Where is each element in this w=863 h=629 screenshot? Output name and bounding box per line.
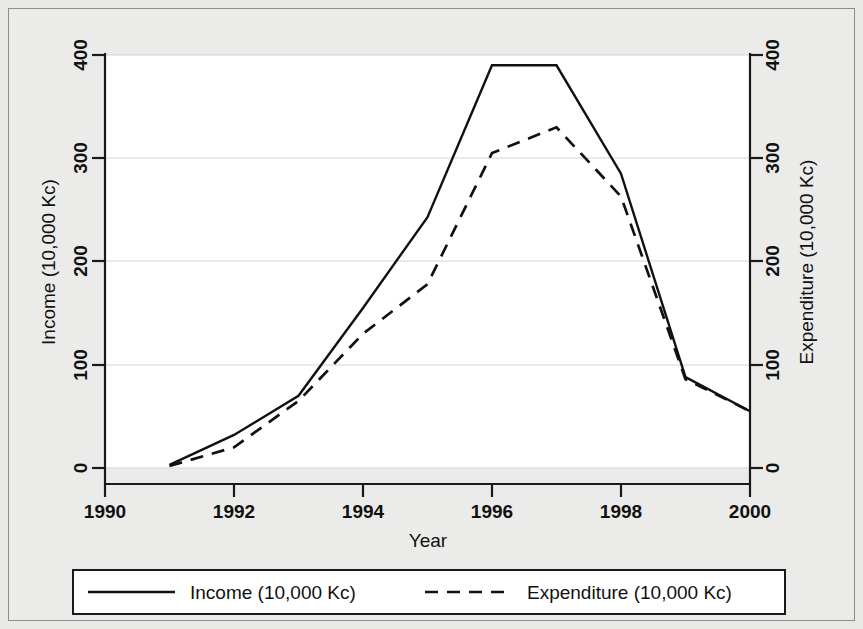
x-ticklabel-1998: 1998 [600, 501, 642, 522]
legend-label-expenditure: Expenditure (10,000 Kc) [527, 582, 732, 603]
left-axis-title: Income (10,000 Kc) [38, 179, 59, 345]
left-ticklabel-300: 300 [70, 142, 91, 174]
x-ticklabel-1996: 1996 [471, 501, 513, 522]
x-ticklabel-2000: 2000 [729, 501, 771, 522]
x-axis-title: Year [409, 530, 448, 551]
left-ticklabel-0: 0 [70, 463, 91, 474]
x-axis-tick-labels: 1990 1992 1994 1996 1998 2000 [84, 501, 771, 522]
right-ticklabel-0: 0 [762, 463, 783, 474]
legend-label-income: Income (10,000 Kc) [190, 582, 356, 603]
x-ticklabel-1990: 1990 [84, 501, 126, 522]
x-ticklabel-1994: 1994 [342, 501, 385, 522]
figure-container: 400 300 200 100 0 Income (10,000 Kc) 400… [0, 0, 863, 629]
x-ticklabel-1992: 1992 [213, 501, 255, 522]
left-ticklabel-400: 400 [70, 39, 91, 71]
left-ticklabel-100: 100 [70, 349, 91, 381]
right-ticklabel-400: 400 [762, 39, 783, 71]
right-ticklabel-100: 100 [762, 349, 783, 381]
x-axis-ticks [105, 484, 750, 497]
right-ticklabel-200: 200 [762, 245, 783, 277]
right-ticklabel-300: 300 [762, 142, 783, 174]
line-chart: 400 300 200 100 0 Income (10,000 Kc) 400… [0, 0, 863, 629]
right-axis-tick-labels: 400 300 200 100 0 [762, 39, 783, 473]
left-ticklabel-200: 200 [70, 245, 91, 277]
left-axis-ticks [92, 55, 105, 468]
legend: Income (10,000 Kc) Expenditure (10,000 K… [73, 570, 785, 614]
right-axis-title: Expenditure (10,000 Kc) [796, 160, 817, 365]
left-axis-tick-labels: 400 300 200 100 0 [70, 39, 91, 473]
